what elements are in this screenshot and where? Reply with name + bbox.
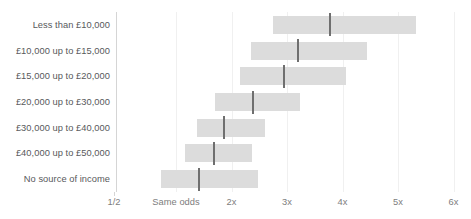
x-tick-label: 6x [449,196,459,209]
median-marker [283,65,285,88]
x-tick-label: 3x [282,196,292,209]
median-marker [198,168,200,191]
range-bar [273,16,416,34]
range-bar [161,170,258,188]
category-label: £20,000 up to £30,000 [4,95,110,109]
median-marker [213,142,215,165]
y-axis-line [116,12,117,192]
range-bar [240,67,346,85]
range-bar [185,144,252,162]
gridline-4x [343,12,344,192]
median-marker [297,39,299,62]
median-marker [223,116,225,139]
category-label: Less than £10,000 [4,18,110,32]
gridline-5x [398,12,399,192]
x-axis: 1/2Same odds2x3x4x5x6x [0,192,471,212]
category-label: £15,000 up to £20,000 [4,69,110,83]
x-tick-label: 5x [393,196,403,209]
range-bar [197,119,266,137]
x-tick-label: 2x [227,196,237,209]
x-tick-label: 4x [338,196,348,209]
category-label: No source of income [4,172,110,186]
odds-range-chart: Less than £10,000£10,000 up to £15,000£1… [0,0,471,219]
range-bar [215,93,300,111]
gridline-same-odds [176,12,177,192]
plot-area: Less than £10,000£10,000 up to £15,000£1… [0,12,471,192]
median-marker [329,13,331,36]
category-label: £40,000 up to £50,000 [4,146,110,160]
gridline-6x [454,12,455,192]
category-label: £10,000 up to £15,000 [4,44,110,58]
category-label: £30,000 up to £40,000 [4,121,110,135]
median-marker [252,91,254,114]
x-tick-label: Same odds [152,196,199,209]
x-tick-label: 1/2 [107,196,120,209]
range-bar [251,42,367,60]
